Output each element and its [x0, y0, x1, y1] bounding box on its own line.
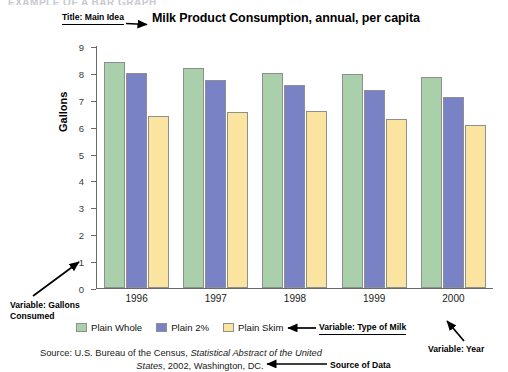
legend-swatch-icon	[76, 323, 87, 332]
plot-area: 0123456789 19961997199819992000	[96, 46, 493, 289]
y-tick-label: 4	[79, 176, 84, 187]
bar[interactable]	[306, 111, 327, 288]
y-tick-label: 2	[79, 230, 84, 241]
y-tick-label: 8	[79, 68, 84, 79]
x-tick-label: 1996	[97, 293, 176, 304]
bar[interactable]	[148, 116, 169, 288]
bar-group: 1999	[335, 46, 414, 288]
legend-label: Plain Whole	[91, 322, 142, 333]
y-tick: 1	[91, 262, 96, 263]
annotation-x-variable: Variable: Year	[428, 344, 484, 354]
source-line2-plain: , 2002, Washington, DC.	[163, 361, 264, 371]
bar[interactable]	[227, 112, 248, 288]
legend-item[interactable]: Plain Skim	[223, 322, 283, 333]
bar[interactable]	[386, 119, 407, 288]
annotation-series-variable: Variable: Type of Milk	[319, 322, 406, 335]
y-tick: 7	[91, 101, 96, 102]
legend-swatch-icon	[156, 323, 167, 332]
bar-groups: 19961997199819992000	[97, 46, 493, 288]
x-tick-label: 1999	[335, 293, 414, 304]
cutoff-header-text: EXAMPLE OF A BAR GRAPH	[8, 0, 157, 5]
arrow-x-variable	[447, 321, 464, 341]
legend-label: Plain Skim	[238, 322, 283, 333]
annotation-y-variable: Variable: Gallons Consumed	[10, 300, 80, 321]
y-tick: 6	[91, 128, 96, 129]
source-line1-italic: Statistical Abstract of the United	[190, 348, 321, 358]
legend-label: Plain 2%	[171, 322, 209, 333]
y-tick: 8	[91, 74, 96, 75]
bar-group: 1996	[97, 46, 176, 288]
bar[interactable]	[104, 62, 125, 288]
y-tick: 4	[91, 181, 96, 182]
annotation-title-main-idea-label: Title: Main Idea	[62, 12, 124, 25]
arrow-title	[126, 24, 147, 25]
x-tick-label: 2000	[414, 293, 493, 304]
y-tick-label: 6	[79, 122, 84, 133]
source-line2: States, 2002, Washington, DC.	[40, 360, 340, 372]
source-caption: Source: U.S. Bureau of the Census, Stati…	[40, 347, 340, 372]
bar[interactable]	[342, 74, 363, 288]
x-tick-label: 1997	[176, 293, 255, 304]
chart-page: EXAMPLE OF A BAR GRAPH Title: Main Idea …	[0, 0, 508, 372]
y-tick: 5	[91, 155, 96, 156]
arrow-y-variable	[33, 262, 79, 296]
bar[interactable]	[284, 85, 305, 288]
y-axis-title: Gallons	[57, 92, 69, 132]
y-tick-label: 0	[79, 284, 84, 295]
y-tick-label: 9	[79, 42, 84, 53]
bar[interactable]	[205, 80, 226, 288]
y-tick: 3	[91, 208, 96, 209]
bar[interactable]	[183, 68, 204, 288]
legend-item[interactable]: Plain 2%	[156, 322, 209, 333]
bar-group: 2000	[414, 46, 493, 288]
legend-item[interactable]: Plain Whole	[76, 322, 142, 333]
bar[interactable]	[262, 73, 283, 288]
y-tick: 9	[91, 47, 96, 48]
bar[interactable]	[421, 77, 442, 288]
y-tick-label: 5	[79, 149, 84, 160]
chart-title: Milk Product Consumption, annual, per ca…	[152, 11, 420, 25]
bar-group: 1997	[176, 46, 255, 288]
y-tick-label: 3	[79, 203, 84, 214]
annotation-series-variable-label: Variable: Type of Milk	[319, 322, 406, 335]
y-tick-label: 1	[79, 257, 84, 268]
y-tick: 0	[91, 289, 96, 290]
bar[interactable]	[443, 97, 464, 288]
y-tick-label: 7	[79, 95, 84, 106]
bar[interactable]	[364, 90, 385, 288]
bar[interactable]	[126, 73, 147, 288]
bar[interactable]	[465, 125, 486, 288]
y-tick: 2	[91, 235, 96, 236]
legend-swatch-icon	[223, 323, 234, 332]
x-tick-label: 1998	[255, 293, 334, 304]
source-line1-plain: Source: U.S. Bureau of the Census,	[40, 348, 190, 358]
annotation-title-main-idea: Title: Main Idea	[62, 12, 124, 25]
chart-legend: Plain WholePlain 2%Plain Skim	[76, 322, 283, 333]
bar-group: 1998	[255, 46, 334, 288]
source-line2-italic: States	[136, 361, 162, 371]
